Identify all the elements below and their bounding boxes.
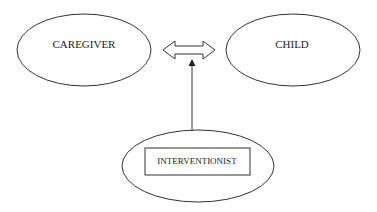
- diagram-canvas: CAREGIVER CHILD INTERVENTIONIST: [0, 0, 377, 212]
- caregiver-ellipse: [17, 14, 151, 86]
- child-label: CHILD: [275, 38, 309, 50]
- child-node: CHILD: [226, 14, 360, 86]
- caregiver-label: CAREGIVER: [53, 38, 117, 50]
- bidirectional-arrow-icon: [163, 41, 215, 59]
- interventionist-node: INTERVENTIONIST: [122, 130, 274, 202]
- influence-arrow: [189, 59, 196, 131]
- interventionist-label: INTERVENTIONIST: [157, 156, 237, 166]
- arrowhead-up-icon: [189, 59, 196, 66]
- caregiver-node: CAREGIVER: [17, 14, 151, 86]
- child-ellipse: [226, 14, 360, 86]
